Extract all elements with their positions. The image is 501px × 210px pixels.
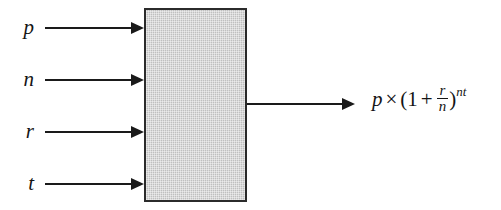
expression-plus-operator: + (421, 89, 433, 110)
output-arrow-icon (247, 97, 357, 111)
input-arrow-t-icon (45, 177, 144, 191)
diagram-canvas: p n r t p × ( 1 + r n ) nt (0, 0, 501, 210)
input-label-n: n (8, 69, 34, 90)
arrow-shaft (45, 131, 133, 133)
input-arrow-p-icon (45, 21, 144, 35)
arrow-shaft (45, 79, 133, 81)
expression-fraction: r n (437, 83, 449, 115)
arrow-shaft (45, 27, 133, 29)
input-arrow-n-icon (45, 73, 144, 87)
expression-times-operator: × (386, 89, 398, 110)
process-box (144, 8, 247, 202)
output-expression: p × ( 1 + r n ) nt (372, 84, 466, 116)
expression-base: p (372, 89, 383, 110)
input-arrow-r-icon (45, 125, 144, 139)
arrow-head (131, 178, 144, 190)
arrow-head (131, 126, 144, 138)
fraction-numerator: r (438, 83, 448, 98)
arrow-shaft (247, 103, 344, 105)
expression-exponent: nt (456, 85, 466, 98)
arrow-shaft (45, 183, 133, 185)
input-label-t: t (8, 173, 34, 194)
arrow-head (131, 74, 144, 86)
arrow-head (131, 22, 144, 34)
arrow-head (342, 98, 355, 110)
expression-one: 1 (407, 89, 418, 110)
input-label-p: p (8, 17, 34, 38)
fraction-denominator: n (437, 99, 449, 114)
expression-close-paren: ) (449, 89, 456, 110)
expression-open-paren: ( (400, 89, 407, 110)
input-label-r: r (8, 121, 34, 142)
